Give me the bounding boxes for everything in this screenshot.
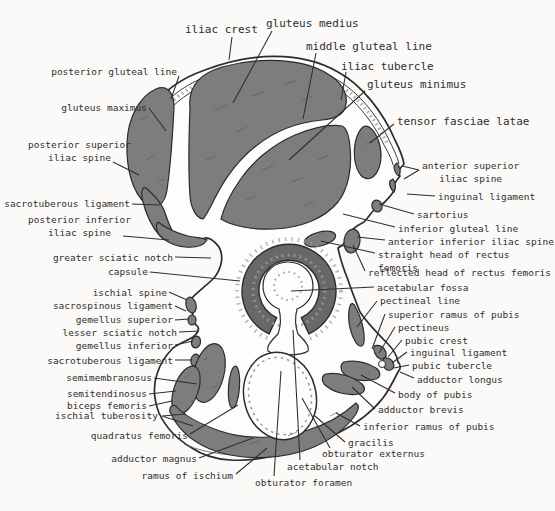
label-acetabular-fossa: acetabular fossa [377, 282, 469, 295]
label-pectineus: pectineus [398, 322, 449, 335]
leader-inguinal-ligament-upper [407, 194, 435, 196]
label-iliac-tubercle: iliac tubercle [341, 60, 434, 73]
leader-adductor-longus [400, 372, 414, 378]
label-adductor-magnus: adductor magnus [111, 453, 197, 466]
leader-greater-sciatic-notch [175, 257, 211, 258]
label-anterior-superior-iliac-spine: anterior superior iliac spine [422, 160, 519, 185]
label-capsule: capsule [108, 266, 148, 279]
gemellus-superior-nub [188, 315, 196, 325]
label-inguinal-ligament-lower: inguinal ligament [410, 347, 507, 360]
label-obturator-externus: obturator externus [322, 448, 425, 461]
label-sacrospinous-ligament: sacrospinous ligament [53, 300, 173, 313]
label-acetabular-notch: acetabular notch [287, 461, 379, 474]
label-sacrotuberous-ligament-lower: sacrotuberous ligament [47, 355, 173, 368]
label-lesser-sciatic-notch: lesser sciatic notch [63, 327, 177, 340]
leader-reflected-head [353, 245, 365, 271]
label-gemellus-inferior: gemellus inferior [76, 340, 173, 353]
label-sacrotuberous-ligament-upper: sacrotuberous ligament [4, 198, 130, 211]
leader-anterior-inferior-iliac-spine [357, 237, 385, 240]
label-obturator-foramen: obturator foramen [255, 477, 352, 490]
label-quadratus-femoris: quadratus femoris [91, 430, 188, 443]
label-semimembranosus: semimembranosus [66, 372, 152, 385]
label-ischial-spine: ischial spine [93, 287, 167, 300]
label-pubic-tubercle: pubic tubercle [412, 360, 492, 373]
label-adductor-longus: adductor longus [417, 374, 503, 387]
label-gemellus-superior: gemellus superior [76, 314, 173, 327]
label-iliac-crest: iliac crest [185, 23, 258, 36]
label-semitendinosus: semitendinosus [67, 388, 147, 401]
hip-bone-figure: iliac crest gluteus medius middle glutea… [0, 0, 555, 511]
label-inguinal-ligament-upper: inguinal ligament [438, 191, 535, 204]
label-posterior-gluteal-line: posterior gluteal line [51, 66, 177, 79]
label-superior-ramus-of-pubis: superior ramus of pubis [388, 309, 520, 322]
label-gluteus-minimus: gluteus minimus [367, 78, 466, 91]
label-gluteus-maximus: gluteus maximus [61, 102, 147, 115]
label-sartorius: sartorius [417, 209, 468, 222]
label-posterior-superior-iliac-spine: posterior superior iliac spine [28, 139, 131, 164]
leader-gemellus-superior [175, 319, 189, 320]
label-ischial-tuberosity: ischial tuberosity [55, 410, 158, 423]
label-middle-gluteal-line: middle gluteal line [306, 40, 432, 53]
label-body-of-pubis: body of pubis [398, 389, 472, 402]
label-anterior-inferior-iliac-spine: anterior inferior iliac spine [388, 236, 554, 249]
label-pectineal-line: pectineal line [380, 295, 460, 308]
label-posterior-inferior-iliac-spine: posterior inferior iliac spine [28, 214, 131, 239]
label-greater-sciatic-notch: greater sciatic notch [53, 252, 173, 265]
leader-sartorius [379, 204, 414, 214]
label-pubic-crest: pubic crest [405, 335, 468, 348]
label-gluteus-medius: gluteus medius [266, 17, 359, 30]
pubic-tubercle-dot [379, 361, 386, 368]
leader-lesser-sciatic-notch [179, 331, 199, 332]
leader-iliac-crest [229, 37, 232, 60]
leader-ischial-spine [169, 292, 187, 300]
label-ramus-of-ischium: ramus of ischium [141, 470, 233, 483]
label-reflected-head-of-rectus-femoris: reflected head of rectus femoris [368, 267, 551, 280]
leader-anterior-superior-iliac-spine [402, 166, 419, 179]
label-tensor-fasciae-latae: tensor fasciae latae [397, 115, 529, 128]
leader-sacrospinous-ligament [175, 306, 186, 311]
label-inferior-gluteal-line: inferior gluteal line [398, 223, 518, 236]
label-adductor-brevis: adductor brevis [378, 404, 464, 417]
label-inferior-ramus-of-pubis: inferior ramus of pubis [363, 421, 495, 434]
